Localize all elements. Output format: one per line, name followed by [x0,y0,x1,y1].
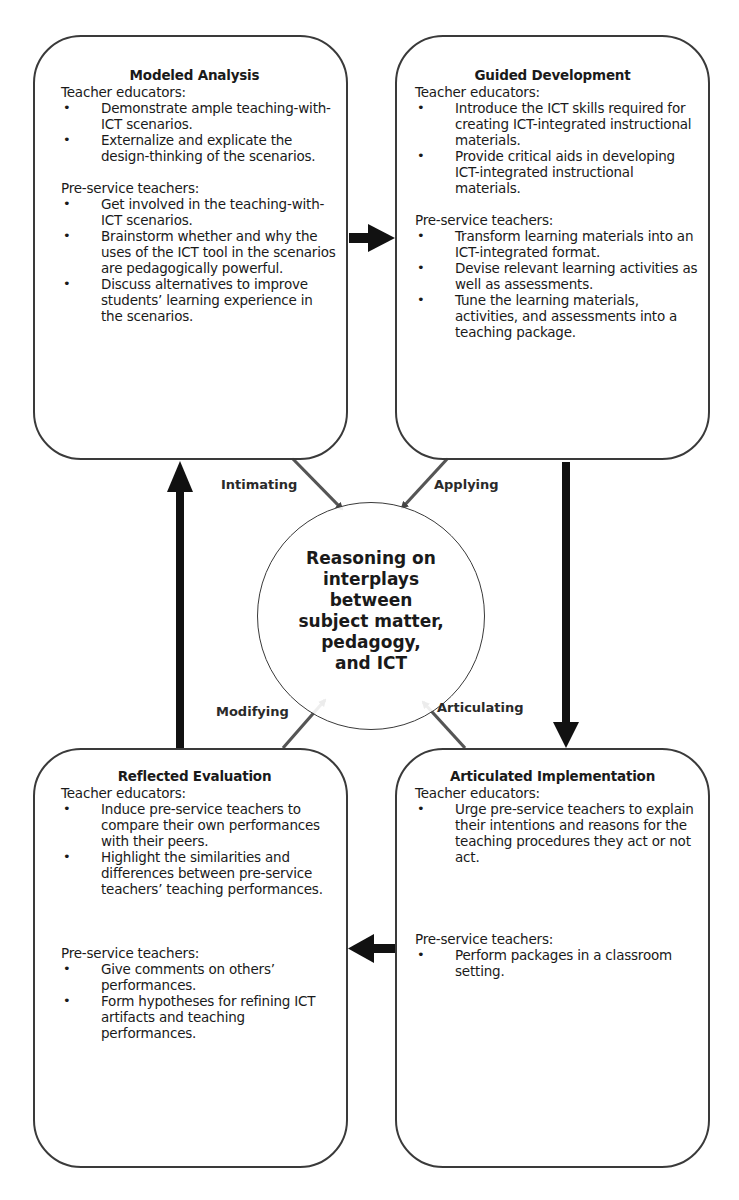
role-label: Teacher educators: [61,84,336,100]
list-item: Get involved in the teaching-with-ICT sc… [61,196,336,228]
applying-label: Applying [434,477,499,492]
role-label: Pre-service teachers: [61,945,336,961]
center-line: interplays [291,569,451,590]
box-title: Articulated Implementation [415,768,698,784]
bullet-list: Give comments on others’ performances. F… [61,961,336,1041]
bullet-list: Urge pre-service teachers to explain the… [415,801,698,865]
role-label: Teacher educators: [415,785,698,801]
teacher-educators-section: Teacher educators: Demonstrate ample tea… [61,84,336,164]
articulating-label: Articulating [437,700,524,715]
box-title: Guided Development [415,67,698,83]
list-item: Perform packages in a classroom setting. [415,947,698,979]
bullet-list: Perform packages in a classroom setting. [415,947,698,979]
bullet-list: Introduce the ICT skills required for cr… [415,100,698,196]
list-item: Discuss alternatives to improve students… [61,276,336,324]
teacher-educators-section: Teacher educators: Induce pre-service te… [61,785,336,897]
box-title: Modeled Analysis [61,67,336,83]
role-label: Teacher educators: [415,84,698,100]
bullet-list: Transform learning materials into an ICT… [415,228,698,340]
pre-service-teachers-section: Pre-service teachers: Transform learning… [415,212,698,340]
bullet-list: Induce pre-service teachers to compare t… [61,801,336,897]
articulated-implementation-box: Articulated Implementation Teacher educa… [395,748,710,1168]
box-title: Reflected Evaluation [61,768,336,784]
intimating-connector [292,458,342,509]
intimating-label: Intimating [221,477,297,492]
list-item: Provide critical aids in developing ICT-… [415,148,698,196]
list-item: Form hypotheses for refining ICT artifac… [61,993,336,1041]
role-label: Pre-service teachers: [415,931,698,947]
center-line: pedagogy, [291,632,451,653]
modeled-analysis-box: Modeled Analysis Teacher educators: Demo… [33,35,348,460]
pre-service-teachers-section: Pre-service teachers: Get involved in th… [61,180,336,324]
center-line: subject matter, [291,611,451,632]
list-item: Highlight the similarities and differenc… [61,849,336,897]
teacher-educators-section: Teacher educators: Urge pre-service teac… [415,785,698,865]
guided-development-box: Guided Development Teacher educators: In… [395,35,710,460]
list-item: Transform learning materials into an ICT… [415,228,698,260]
list-item: Introduce the ICT skills required for cr… [415,100,698,148]
teacher-educators-section: Teacher educators: Introduce the ICT ski… [415,84,698,196]
center-reasoning-circle: Reasoning on interplays between subject … [257,502,485,730]
role-label: Teacher educators: [61,785,336,801]
list-item: Devise relevant learning activities as w… [415,260,698,292]
reflected-evaluation-box: Reflected Evaluation Teacher educators: … [33,748,348,1168]
list-item: Induce pre-service teachers to compare t… [61,801,336,849]
role-label: Pre-service teachers: [415,212,698,228]
pre-service-teachers-section: Pre-service teachers: Give comments on o… [61,945,336,1041]
list-item: Give comments on others’ performances. [61,961,336,993]
bullet-list: Demonstrate ample teaching-with-ICT scen… [61,100,336,164]
modifying-label: Modifying [216,704,289,719]
list-item: Demonstrate ample teaching-with-ICT scen… [61,100,336,132]
center-line: and ICT [291,653,451,674]
list-item: Tune the learning materials, activities,… [415,292,698,340]
pre-service-teachers-section: Pre-service teachers: Perform packages i… [415,931,698,979]
role-label: Pre-service teachers: [61,180,336,196]
bullet-list: Get involved in the teaching-with-ICT sc… [61,196,336,324]
center-line: Reasoning on [291,548,451,569]
list-item: Externalize and explicate the design-thi… [61,132,336,164]
center-text: Reasoning on interplays between subject … [291,548,451,674]
center-line: between [291,590,451,611]
list-item: Urge pre-service teachers to explain the… [415,801,698,865]
list-item: Brainstorm whether and why the uses of t… [61,228,336,276]
